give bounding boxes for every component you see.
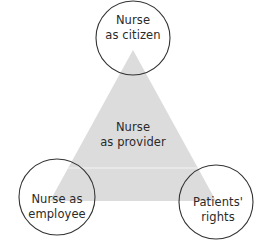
patients-rights-label-line2: rights [178, 210, 258, 225]
citizen-label-line2: as citizen [88, 28, 178, 43]
employee-label-line1: Nurse as [17, 192, 97, 207]
provider-label-line1: Nurse [83, 120, 183, 135]
provider-label: Nurse as provider [83, 120, 183, 150]
employee-label-line2: employee [17, 207, 97, 222]
employee-label: Nurse as employee [17, 192, 97, 222]
citizen-label-line1: Nurse [88, 13, 178, 28]
provider-label-line2: as provider [83, 135, 183, 150]
patients-rights-label-line1: Patients' [178, 195, 258, 210]
citizen-label: Nurse as citizen [88, 13, 178, 43]
patients-rights-label: Patients' rights [178, 195, 258, 225]
